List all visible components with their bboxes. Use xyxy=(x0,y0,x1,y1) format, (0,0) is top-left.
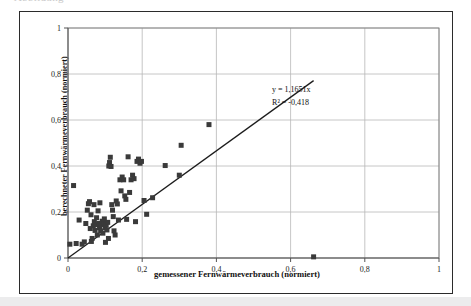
svg-text:1: 1 xyxy=(437,265,441,274)
svg-text:0,6: 0,6 xyxy=(286,265,296,274)
svg-text:1: 1 xyxy=(57,24,61,33)
plot-canvas: 00,20,40,60,8100,20,40,60,81 y = 1,1651x… xyxy=(20,12,454,295)
svg-text:0,2: 0,2 xyxy=(137,265,147,274)
svg-text:0,8: 0,8 xyxy=(51,70,61,79)
svg-text:R² = -0,418: R² = -0,418 xyxy=(272,98,309,107)
svg-text:y = 1,1651x: y = 1,1651x xyxy=(272,85,311,94)
svg-text:0: 0 xyxy=(66,265,70,274)
scan-bottom-band xyxy=(0,297,471,306)
svg-text:0: 0 xyxy=(57,254,61,263)
scan-top-artifact-strip: Abbildung xyxy=(0,0,471,9)
svg-text:0,8: 0,8 xyxy=(360,265,370,274)
gridlines xyxy=(68,28,439,258)
figure-frame: berechneter Fernwärmeverbrauch (normiert… xyxy=(19,11,453,294)
axis-ticks xyxy=(64,28,439,262)
data-points xyxy=(67,122,316,259)
svg-text:0,6: 0,6 xyxy=(51,116,61,125)
svg-text:0,4: 0,4 xyxy=(211,265,221,274)
scan-ghost-text: Abbildung xyxy=(14,0,64,3)
scatter-chart: berechneter Fernwärmeverbrauch (normiert… xyxy=(20,12,454,295)
svg-text:0,2: 0,2 xyxy=(51,208,61,217)
axis-frame xyxy=(68,28,439,258)
svg-text:0,4: 0,4 xyxy=(51,162,61,171)
